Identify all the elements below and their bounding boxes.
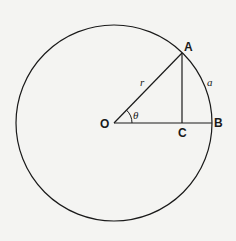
- angle-arc: [127, 110, 133, 123]
- point-label-o: O: [100, 117, 109, 131]
- circle-diagram: O A B C r θ a: [0, 0, 236, 241]
- arc-label: a: [207, 76, 213, 88]
- point-label-a: A: [184, 40, 193, 54]
- radius-line-oa: [114, 53, 182, 123]
- point-label-b: B: [214, 116, 223, 130]
- angle-label: θ: [133, 109, 139, 121]
- point-label-c: C: [178, 126, 187, 140]
- radius-label: r: [140, 76, 145, 88]
